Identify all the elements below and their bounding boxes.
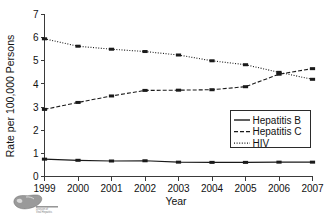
data-point-marker	[75, 159, 80, 162]
data-point-marker	[42, 158, 47, 161]
legend-label: HIV	[253, 138, 270, 149]
data-point-marker	[109, 48, 114, 51]
data-point-marker	[276, 71, 281, 74]
data-point-marker	[75, 45, 80, 48]
series-hepatitis-c	[42, 67, 315, 111]
data-point-marker	[42, 108, 47, 111]
x-tick-label: 2007	[301, 183, 324, 194]
data-point-marker	[310, 161, 315, 164]
x-tick-label: 2003	[167, 183, 190, 194]
x-tick-label: 2002	[134, 183, 157, 194]
x-tick-label: 2004	[201, 183, 224, 194]
x-tick-label: 2006	[268, 183, 291, 194]
data-point-marker	[176, 89, 181, 92]
y-tick-label: 7	[33, 9, 39, 20]
x-tick-label: 1999	[33, 183, 56, 194]
data-point-marker	[176, 54, 181, 57]
series-line	[45, 39, 313, 80]
logo-caption-line1: Division of	[36, 207, 48, 211]
data-point-marker	[142, 89, 147, 92]
data-point-marker	[209, 88, 214, 91]
data-point-marker	[243, 63, 248, 66]
chart-legend: Hepatitis BHepatitis CHIV	[231, 111, 311, 149]
y-tick-label: 4	[33, 79, 39, 90]
y-tick-label: 6	[33, 32, 39, 43]
x-axis-title: Year	[165, 195, 187, 207]
y-tick-label: 0	[33, 171, 39, 182]
chart-axes	[41, 15, 313, 181]
x-tick-label: 2000	[67, 183, 90, 194]
series-hepatitis-b	[42, 158, 315, 164]
data-point-marker	[310, 78, 315, 81]
liver-logo: Division of Viral Hepatitis	[14, 195, 58, 214]
data-point-marker	[209, 161, 214, 164]
y-tick-label: 3	[33, 102, 39, 113]
logo-caption-line2: Viral Hepatitis	[36, 210, 53, 214]
y-tick-label: 1	[33, 148, 39, 159]
x-axis-tick-labels: 199920002001200220032004200520062007	[33, 183, 324, 194]
y-tick-label: 5	[33, 55, 39, 66]
data-point-marker	[243, 85, 248, 88]
x-axis-ticks	[45, 177, 313, 181]
legend-label: Hepatitis C	[253, 126, 302, 137]
data-point-marker	[142, 159, 147, 162]
data-point-marker	[176, 161, 181, 164]
data-point-marker	[42, 37, 47, 40]
data-point-marker	[243, 161, 248, 164]
chart-figure: 01234567 1999200020012002200320042005200…	[0, 0, 328, 224]
y-tick-label: 2	[33, 125, 39, 136]
legend-label: Hepatitis B	[253, 115, 302, 126]
series-hiv	[42, 37, 315, 81]
data-point-marker	[109, 159, 114, 162]
data-point-marker	[209, 59, 214, 62]
y-axis-title: Rate per 100,000 Persons	[4, 35, 16, 158]
y-axis-tick-labels: 01234567	[33, 9, 39, 182]
x-tick-label: 2001	[100, 183, 123, 194]
data-point-marker	[276, 161, 281, 164]
data-point-marker	[142, 50, 147, 53]
data-point-marker	[109, 94, 114, 97]
data-point-marker	[75, 101, 80, 104]
data-point-marker	[310, 67, 315, 70]
line-chart: 01234567 1999200020012002200320042005200…	[0, 0, 328, 224]
x-tick-label: 2005	[234, 183, 257, 194]
